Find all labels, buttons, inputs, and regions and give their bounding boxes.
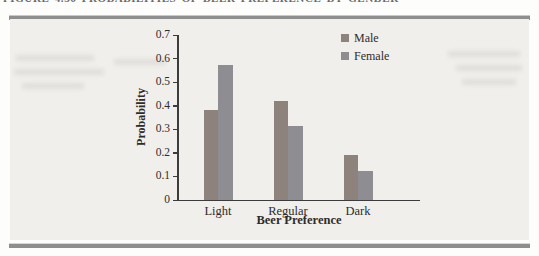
legend-label: Male	[354, 31, 379, 46]
y-tick-label: 0.6	[140, 52, 170, 64]
figure-caption-clipped: FIGURE 4.36 PROBABILITIES OF BEER PREFER…	[3, 0, 523, 5]
x-axis-line	[177, 200, 420, 202]
y-tick-label: 0.3	[140, 122, 170, 134]
y-tick-label: 0.4	[140, 99, 170, 111]
bottom-horizontal-rule	[9, 243, 530, 248]
female-bar-regular	[288, 126, 303, 199]
legend-swatch-icon	[341, 34, 349, 42]
legend-label: Female	[354, 49, 389, 64]
figure-panel: Probability 00.10.20.30.40.50.60.7 Light…	[10, 19, 529, 240]
legend-item-male: Male	[341, 29, 389, 47]
bleed-through-artifact	[456, 65, 522, 71]
scanned-textbook-figure: FIGURE 4.36 PROBABILITIES OF BEER PREFER…	[0, 0, 539, 256]
male-bar-dark	[344, 155, 359, 200]
bleed-through-artifact	[14, 69, 104, 75]
female-bar-light	[218, 65, 233, 199]
y-tick-label: 0.2	[140, 146, 170, 158]
chart-legend: MaleFemale	[341, 29, 389, 65]
y-tick-label: 0	[140, 193, 170, 205]
figure-caption-text: FIGURE 4.36 PROBABILITIES OF BEER PREFER…	[3, 0, 523, 4]
female-bar-dark	[358, 171, 373, 199]
bleed-through-artifact	[22, 83, 84, 89]
male-bar-regular	[274, 101, 289, 200]
bleed-through-artifact	[448, 51, 520, 57]
bleed-through-artifact	[462, 79, 516, 85]
x-axis-title: Beer Preference	[178, 213, 420, 228]
y-axis-line	[177, 35, 179, 200]
y-tick-label: 0.7	[140, 28, 170, 40]
y-axis-title: Probability	[134, 88, 149, 146]
male-bar-light	[204, 110, 219, 200]
bleed-through-artifact	[16, 55, 94, 61]
legend-item-female: Female	[341, 47, 389, 65]
y-tick-label: 0.5	[140, 75, 170, 87]
y-tick-label: 0.1	[140, 169, 170, 181]
legend-swatch-icon	[341, 52, 349, 60]
